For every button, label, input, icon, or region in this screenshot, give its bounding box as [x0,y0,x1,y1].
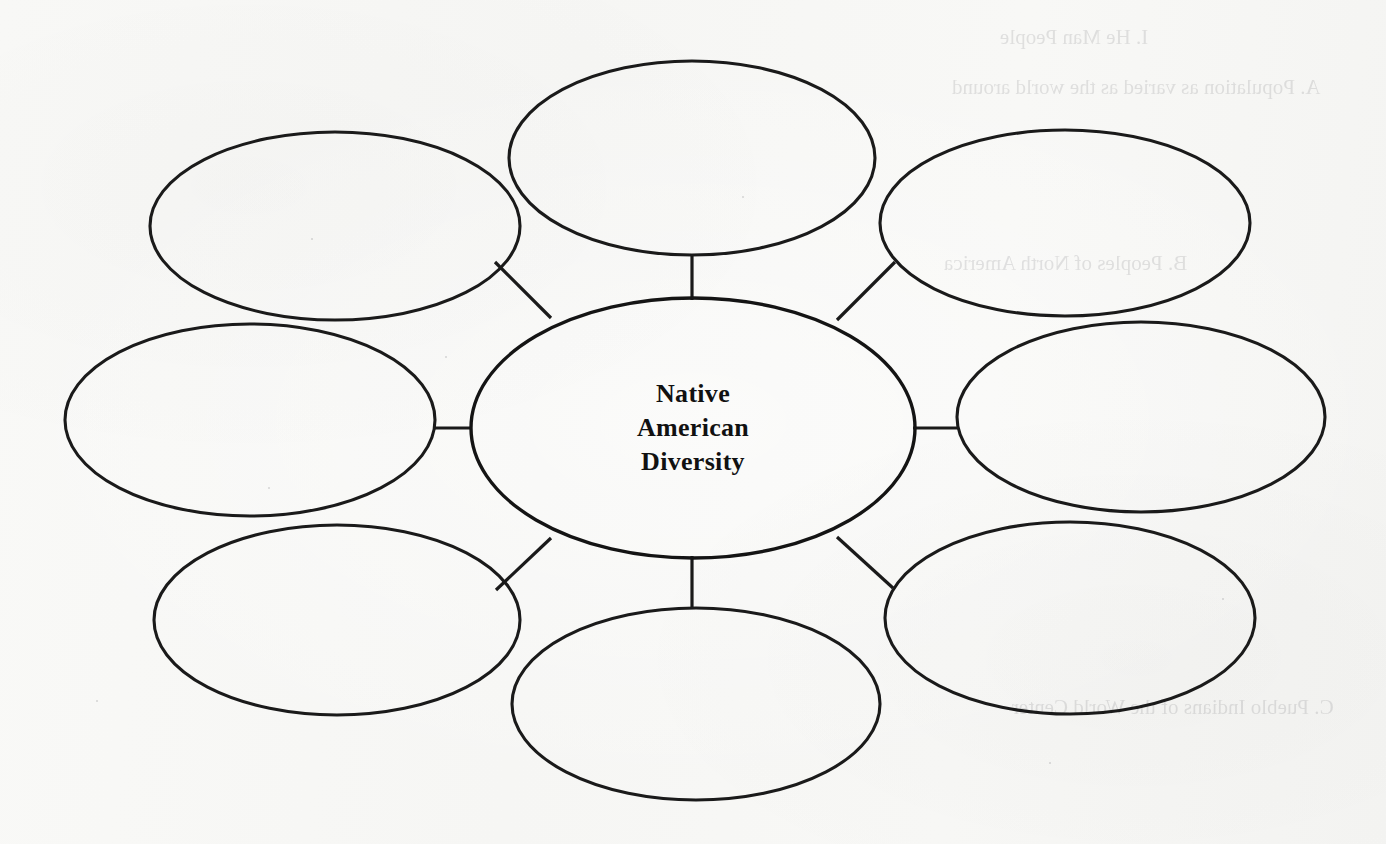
connector-center-to-top-left [495,262,551,318]
connector-center-to-bottom-right [837,537,893,588]
bubble-top-right[interactable] [880,130,1250,316]
bubble-center[interactable] [471,298,915,558]
bubble-web-diagram [0,0,1386,844]
bubble-top[interactable] [509,61,875,255]
bubble-top-left[interactable] [150,132,520,320]
bubble-bottom[interactable] [512,608,880,800]
bubble-left[interactable] [65,324,435,516]
connector-center-to-top-right [837,262,895,320]
bubble-right[interactable] [957,322,1325,512]
bubble-bottom-left[interactable] [154,525,520,715]
worksheet-page: I. He Man People A. Population as varied… [0,0,1386,844]
connector-group [434,255,958,609]
bubble-bottom-right[interactable] [885,522,1255,714]
